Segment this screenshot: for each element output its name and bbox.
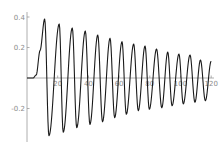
y-tick-label: -0.2: [11, 105, 25, 113]
y-tick-label: 0.4: [14, 14, 26, 22]
x-tick-label: 120: [205, 80, 218, 88]
y-tick-label: 0.2: [14, 44, 25, 52]
line-chart: 0.40.2-0.2 20406080100120: [0, 0, 222, 148]
x-axis: 20406080100120: [27, 76, 218, 89]
x-tick-label: 60: [115, 80, 124, 88]
y-axis: 0.40.2-0.2: [11, 12, 29, 142]
